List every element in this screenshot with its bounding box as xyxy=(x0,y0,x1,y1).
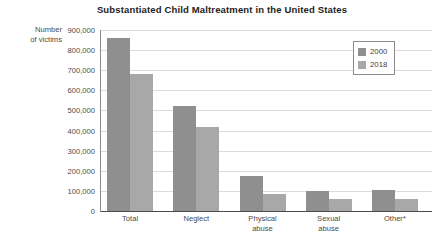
y-tick-label: 600,000 xyxy=(49,86,95,95)
bar-2018 xyxy=(130,74,153,211)
bar-2000 xyxy=(306,191,329,211)
x-tick-label-line2: abuse xyxy=(230,224,296,234)
x-tick-label: Sexualabuse xyxy=(296,214,362,233)
x-tick-label: Total xyxy=(97,214,163,224)
bar-2000 xyxy=(107,38,130,211)
bar-2000 xyxy=(173,106,196,211)
x-tick-label: Other* xyxy=(362,214,428,224)
x-tick-label-line1: Total xyxy=(97,214,163,224)
x-tick-label: Neglect xyxy=(163,214,229,224)
x-tick-label-line2: abuse xyxy=(296,224,362,234)
y-tick-label: 200,000 xyxy=(49,166,95,175)
x-tick-label-line1: Other* xyxy=(362,214,428,224)
y-tick-label: 900,000 xyxy=(49,26,95,35)
x-tick-label-line1: Physical xyxy=(230,214,296,224)
y-tick-label: 500,000 xyxy=(49,106,95,115)
legend-swatch-icon xyxy=(358,48,366,56)
legend-label: 2000 xyxy=(370,47,387,56)
chart-title: Substantiated Child Maltreatment in the … xyxy=(0,4,444,15)
bar-group xyxy=(240,30,286,211)
legend-item: 2000 xyxy=(358,45,387,58)
bar-group xyxy=(173,30,219,211)
bar-2018 xyxy=(395,199,418,211)
bar-2018 xyxy=(196,127,219,211)
x-axis-baseline xyxy=(101,211,432,212)
y-tick-label: 300,000 xyxy=(49,146,95,155)
x-tick-label-line1: Neglect xyxy=(163,214,229,224)
bar-2018 xyxy=(329,199,352,211)
y-axis-tick-labels: 900,000800,000700,000600,000500,000400,0… xyxy=(47,30,95,211)
x-tick-label: Physicalabuse xyxy=(230,214,296,233)
bar-2000 xyxy=(240,176,263,211)
bar-2018 xyxy=(263,194,286,211)
y-tick-label: 400,000 xyxy=(49,126,95,135)
y-tick-label: 0 xyxy=(49,207,95,216)
chart-legend: 20002018 xyxy=(353,41,395,75)
y-tick-label: 100,000 xyxy=(49,186,95,195)
bar-chart: Substantiated Child Maltreatment in the … xyxy=(0,0,444,249)
bar-2000 xyxy=(372,190,395,211)
bar-group xyxy=(107,30,153,211)
legend-item: 2018 xyxy=(358,58,387,71)
bar-group xyxy=(306,30,352,211)
x-tick-label-line1: Sexual xyxy=(296,214,362,224)
legend-swatch-icon xyxy=(358,61,366,69)
y-tick-label: 800,000 xyxy=(49,46,95,55)
x-axis-tick-labels: TotalNeglectPhysicalabuseSexualabuseOthe… xyxy=(101,214,432,246)
y-tick-label: 700,000 xyxy=(49,66,95,75)
legend-label: 2018 xyxy=(370,60,387,69)
